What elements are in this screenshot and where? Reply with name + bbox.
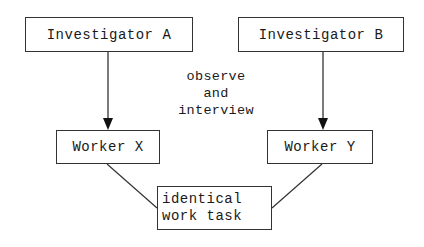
edge-label-line1: observe	[166, 68, 266, 85]
work-task-box: identical work task	[157, 186, 272, 230]
investigator-a-label: Investigator A	[47, 27, 172, 43]
work-task-line1: identical	[162, 191, 242, 208]
investigator-a-box: Investigator A	[25, 17, 193, 52]
work-task-line2: work task	[162, 208, 242, 225]
worker-y-box: Worker Y	[267, 130, 373, 164]
worker-y-label: Worker Y	[284, 139, 355, 155]
edge-label-line3: interview	[166, 102, 266, 119]
worker-x-box: Worker X	[56, 130, 160, 164]
investigator-b-box: Investigator B	[238, 17, 404, 52]
worker-x-label: Worker X	[72, 139, 143, 155]
arrowhead-icon	[103, 118, 113, 130]
edge-label: observe and interview	[166, 68, 266, 119]
edge-label-line2: and	[166, 85, 266, 102]
investigator-b-label: Investigator B	[259, 27, 384, 43]
arrowhead-icon	[318, 118, 328, 130]
